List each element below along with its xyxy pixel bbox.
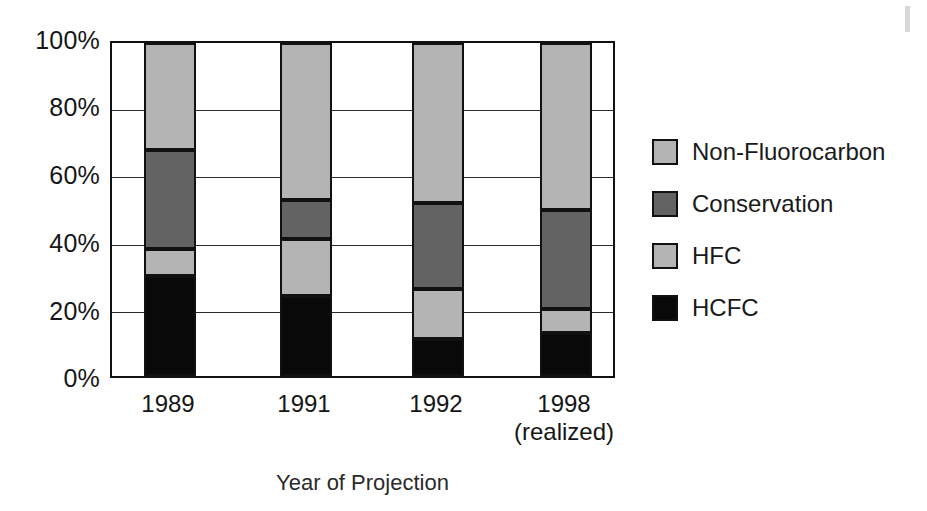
segment-1998-conservation xyxy=(540,210,592,310)
bar-1989 xyxy=(144,43,196,376)
segment-1989-nonfluorocarbon xyxy=(144,43,196,150)
x-tick-1989: 1989 xyxy=(93,390,243,418)
segment-1992-nonfluorocarbon xyxy=(412,43,464,203)
legend-swatch-conservation xyxy=(652,191,678,217)
legend-item-non-fluorocarbon: Non-Fluorocarbon xyxy=(652,126,922,178)
legend-swatch-hcfc xyxy=(652,295,678,321)
x-tick-1992-main: 1992 xyxy=(409,390,462,417)
segment-1992-hfc xyxy=(412,289,464,339)
x-tick-1989-main: 1989 xyxy=(141,390,194,417)
y-tick-40: 40% xyxy=(8,231,100,256)
segment-1992-conservation xyxy=(412,203,464,290)
bar-1998 xyxy=(540,43,592,376)
segment-1991-conservation xyxy=(280,200,332,240)
legend-item-hcfc: HCFC xyxy=(652,282,922,334)
x-tick-1991-main: 1991 xyxy=(277,390,330,417)
segment-1991-hcfc xyxy=(280,296,332,376)
bar-1991 xyxy=(280,43,332,376)
scan-artifact xyxy=(905,6,910,32)
y-tick-80: 80% xyxy=(8,95,100,120)
y-tick-60: 60% xyxy=(8,163,100,188)
legend-label-conservation: Conservation xyxy=(692,191,833,217)
legend-label-hfc: HFC xyxy=(692,243,741,269)
segment-1998-hcfc xyxy=(540,333,592,376)
segment-1989-hfc xyxy=(144,249,196,276)
stacked-bar-chart: 100% 80% 60% 40% 20% 0% xyxy=(0,0,927,511)
x-tick-1998: 1998 (realized) xyxy=(489,390,639,446)
chart-legend: Non-Fluorocarbon Conservation HFC HCFC xyxy=(652,126,922,334)
y-tick-0: 0% xyxy=(8,366,100,391)
y-axis-tick-labels: 100% 80% 60% 40% 20% 0% xyxy=(0,41,100,378)
y-tick-20: 20% xyxy=(8,299,100,324)
x-axis-tick-labels: 1989 1991 1992 1998 (realized) xyxy=(110,390,615,460)
segment-1998-nonfluorocarbon xyxy=(540,43,592,210)
x-tick-1998-main: 1998 xyxy=(537,390,590,417)
segment-1992-hcfc xyxy=(412,339,464,376)
legend-swatch-hfc xyxy=(652,243,678,269)
legend-label-non-fluorocarbon: Non-Fluorocarbon xyxy=(692,139,885,165)
x-tick-1998-sub: (realized) xyxy=(489,418,639,446)
plot-area xyxy=(110,41,615,378)
legend-item-conservation: Conservation xyxy=(652,178,922,230)
legend-swatch-non-fluorocarbon xyxy=(652,139,678,165)
segment-1998-hfc xyxy=(540,309,592,332)
segment-1991-nonfluorocarbon xyxy=(280,43,332,200)
bar-1992 xyxy=(412,43,464,376)
segment-1991-hfc xyxy=(280,239,332,296)
x-tick-1991: 1991 xyxy=(229,390,379,418)
legend-item-hfc: HFC xyxy=(652,230,922,282)
y-tick-100: 100% xyxy=(8,28,100,53)
x-axis-title: Year of Projection xyxy=(110,470,615,496)
legend-label-hcfc: HCFC xyxy=(692,295,759,321)
segment-1989-hcfc xyxy=(144,276,196,376)
segment-1989-conservation xyxy=(144,150,196,250)
